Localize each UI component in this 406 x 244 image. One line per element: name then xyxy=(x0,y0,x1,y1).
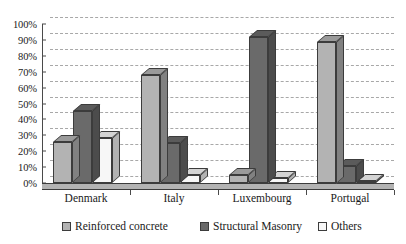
x-axis-category-label: Denmark xyxy=(65,192,108,204)
bar-side-face xyxy=(268,30,276,183)
plot-area: 0%10%20%30%40%50%60%70%80%90%100% xyxy=(42,24,394,190)
bar-side-face xyxy=(180,136,188,183)
bar-front-face xyxy=(249,37,268,183)
legend-item[interactable]: Structural Masonry xyxy=(200,220,302,232)
y-axis-tick-label: 50% xyxy=(18,98,42,109)
legend-item[interactable]: Others xyxy=(318,220,362,232)
x-axis-category-label: Italy xyxy=(163,192,184,204)
x-axis-tick-mark xyxy=(394,190,395,195)
bar-front-face xyxy=(357,181,376,183)
bar-front-face xyxy=(141,75,160,183)
bar xyxy=(229,175,248,183)
legend-label: Reinforced concrete xyxy=(75,220,168,232)
legend-label: Structural Masonry xyxy=(213,220,302,232)
chart-legend: Reinforced concreteStructural MasonryOth… xyxy=(0,218,406,238)
bar-side-face xyxy=(160,68,168,183)
x-axis-category-label: Portugal xyxy=(331,192,370,204)
bar xyxy=(317,42,336,184)
x-axis-category-labels: DenmarkItalyLuxembourgPortugal xyxy=(42,192,394,210)
legend-swatch-icon xyxy=(200,222,209,231)
bar-side-face xyxy=(72,135,80,183)
y-axis-tick-label: 10% xyxy=(18,162,42,173)
bar-front-face xyxy=(229,175,248,183)
y-axis-tick-label: 0% xyxy=(23,178,42,189)
bar-side-face xyxy=(112,132,120,183)
y-axis-tick-label: 20% xyxy=(18,146,42,157)
bar xyxy=(141,75,160,183)
bar-front-face xyxy=(53,142,72,183)
bar xyxy=(53,142,72,183)
legend-item[interactable]: Reinforced concrete xyxy=(62,220,168,232)
x-axis-category-label: Luxembourg xyxy=(232,192,291,204)
bar-front-face xyxy=(317,42,336,184)
bar-side-face xyxy=(336,35,344,183)
bar xyxy=(357,181,376,183)
legend-swatch-icon xyxy=(318,222,327,231)
y-axis-tick-label: 90% xyxy=(18,34,42,45)
legend-label: Others xyxy=(331,220,362,232)
y-axis-tick-label: 30% xyxy=(18,130,42,141)
legend-swatch-icon xyxy=(62,222,71,231)
y-axis-tick-label: 40% xyxy=(18,114,42,125)
bar xyxy=(249,37,268,183)
chart-floor xyxy=(42,183,394,190)
y-axis-tick-label: 100% xyxy=(13,19,42,30)
y-axis-tick-label: 80% xyxy=(18,50,42,61)
y-axis-tick-label: 70% xyxy=(18,66,42,77)
y-axis-tick-label: 60% xyxy=(18,82,42,93)
bars-layer xyxy=(42,24,394,190)
bar-chart: 0%10%20%30%40%50%60%70%80%90%100% Denmar… xyxy=(0,0,406,244)
gridline xyxy=(50,17,394,18)
bar-side-face xyxy=(92,104,100,183)
